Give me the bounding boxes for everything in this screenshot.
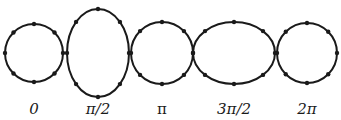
marker-dot xyxy=(203,29,207,33)
marker-dot xyxy=(305,21,309,25)
marker-dot xyxy=(284,72,288,76)
marker-dot xyxy=(138,29,142,33)
marker-dot xyxy=(52,30,56,34)
marker-dot xyxy=(118,20,122,24)
marker-dot xyxy=(96,95,100,99)
marker-dot xyxy=(74,20,78,24)
marker-dot xyxy=(32,22,36,26)
marker-dot xyxy=(52,71,56,75)
label-phase-3pi-half: 3π/2 xyxy=(217,100,251,118)
marker-dot xyxy=(118,82,122,86)
marker-dot xyxy=(305,81,309,85)
label-phase-pi: π xyxy=(157,100,167,118)
marker-dot xyxy=(61,51,65,55)
marker-dot xyxy=(261,29,265,33)
marker-dot xyxy=(275,51,279,55)
marker-dot xyxy=(335,51,339,55)
marker-dot xyxy=(11,30,15,34)
ellipse-shape xyxy=(65,7,131,99)
marker-dot xyxy=(129,51,133,55)
marker-dot xyxy=(3,51,7,55)
marker-dot xyxy=(191,51,195,55)
marker-dot xyxy=(65,51,69,55)
marker-dot xyxy=(284,30,288,34)
marker-dot xyxy=(326,72,330,76)
marker-dot xyxy=(32,80,36,84)
marker-dot xyxy=(182,29,186,33)
circle-shape xyxy=(129,20,195,86)
marker-dot xyxy=(11,71,15,75)
label-phase-0: 0 xyxy=(29,100,39,118)
label-phase-2pi: 2π xyxy=(297,100,316,118)
marker-dot xyxy=(261,73,265,77)
marker-dot xyxy=(160,82,164,86)
marker-dot xyxy=(326,30,330,34)
circle-shape xyxy=(3,22,65,84)
marker-dot xyxy=(232,20,236,24)
marker-dot xyxy=(182,73,186,77)
label-phase-pi-half: π/2 xyxy=(86,100,110,118)
marker-dot xyxy=(138,73,142,77)
marker-dot xyxy=(96,7,100,11)
phase-shapes-diagram xyxy=(0,0,341,120)
circle-shape xyxy=(275,21,339,85)
marker-dot xyxy=(74,82,78,86)
marker-dot xyxy=(232,82,236,86)
marker-dot xyxy=(203,73,207,77)
ellipse-shape xyxy=(191,20,277,86)
marker-dot xyxy=(160,20,164,24)
